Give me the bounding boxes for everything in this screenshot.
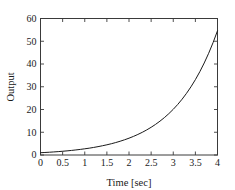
x-tick-label: 1 bbox=[82, 157, 87, 168]
x-tick-label: 4 bbox=[215, 157, 220, 168]
exponential-line-chart: 00.511.522.533.54 0102030405060 Time [se… bbox=[0, 0, 235, 190]
y-tick-label: 60 bbox=[27, 13, 37, 24]
x-tick-label: 3 bbox=[171, 157, 176, 168]
y-tick-label: 40 bbox=[27, 58, 37, 69]
x-tick-label: 2 bbox=[127, 157, 132, 168]
x-axis-title: Time [sec] bbox=[107, 177, 152, 188]
x-axis-tick-labels: 00.511.522.533.54 bbox=[38, 157, 220, 168]
figure-container: 00.511.522.533.54 0102030405060 Time [se… bbox=[0, 0, 235, 190]
y-tick-label: 20 bbox=[27, 104, 37, 115]
x-tick-label: 0.5 bbox=[56, 157, 69, 168]
y-tick-label: 30 bbox=[27, 81, 37, 92]
x-tick-label: 1.5 bbox=[101, 157, 114, 168]
y-tick-label: 50 bbox=[27, 36, 37, 47]
y-tick-label: 0 bbox=[32, 149, 37, 160]
x-tick-label: 3.5 bbox=[189, 157, 202, 168]
x-tick-label: 2.5 bbox=[145, 157, 158, 168]
y-axis-title: Output bbox=[5, 72, 16, 101]
x-tick-label: 0 bbox=[38, 157, 43, 168]
y-tick-label: 10 bbox=[27, 127, 37, 138]
